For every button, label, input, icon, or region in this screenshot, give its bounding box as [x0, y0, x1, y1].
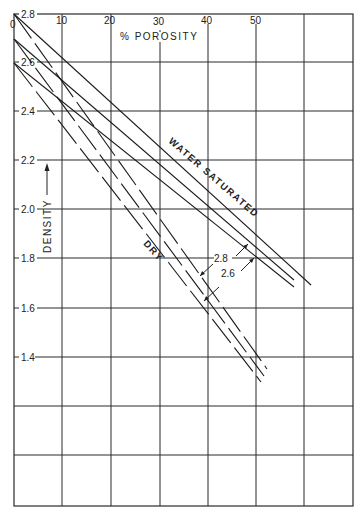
x-tick-0: 0	[10, 19, 16, 30]
y-tick-2.4: 2.4	[21, 106, 35, 117]
x-tick-10: 10	[56, 15, 68, 26]
y-axis-title: DENSITY	[42, 199, 53, 253]
arrow-up-icon	[45, 163, 50, 195]
water-saturated-series	[14, 14, 311, 287]
water-saturated-label: WATER SATURATED	[167, 135, 262, 219]
x-axis-title: % POROSITY	[120, 31, 198, 42]
y-tick-1.8: 1.8	[21, 253, 35, 264]
water-line-2.8	[14, 14, 311, 285]
y-tick-1.6: 1.6	[21, 303, 35, 314]
x-axis: 0 10 20 30 40 50 % POROSITY	[10, 15, 262, 42]
annotation-2.6: 2.6	[221, 268, 235, 279]
annotation-2.8: 2.8	[214, 253, 228, 264]
plot-frame	[14, 14, 353, 506]
dry-label: DRY	[142, 238, 166, 263]
x-tick-30: 30	[153, 16, 165, 27]
y-tick-2.8: 2.8	[21, 9, 35, 20]
y-tick-1.4: 1.4	[21, 352, 35, 363]
dry-series	[14, 14, 267, 382]
x-tick-40: 40	[201, 15, 213, 26]
x-tick-50: 50	[250, 15, 262, 26]
x-tick-20: 20	[104, 15, 116, 26]
y-tick-2.2: 2.2	[21, 155, 35, 166]
porosity-density-chart: 2.8 2.6 2.4 2.2 2.0 1.8 1.6 1.4 DENSITY …	[0, 0, 364, 515]
grid	[14, 14, 353, 506]
y-tick-2.0: 2.0	[21, 204, 35, 215]
